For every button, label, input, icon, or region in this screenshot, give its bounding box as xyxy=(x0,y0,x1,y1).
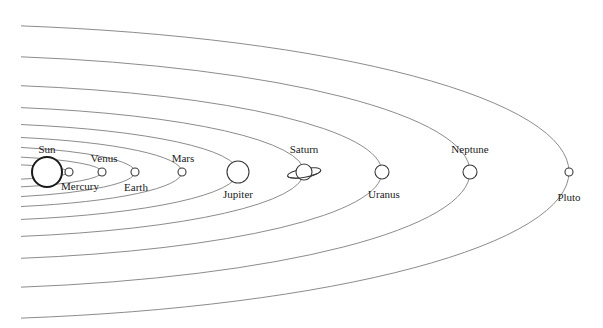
solar-system-diagram: SunMercuryVenusEarthMarsJupiterSaturnUra… xyxy=(0,0,603,328)
sun-icon xyxy=(32,157,62,187)
jupiter-icon xyxy=(227,161,249,183)
uranus-label: Uranus xyxy=(368,188,400,200)
jupiter-label: Jupiter xyxy=(223,188,253,200)
venus-label: Venus xyxy=(91,152,118,164)
mars-label: Mars xyxy=(172,152,195,164)
neptune-label: Neptune xyxy=(451,143,488,155)
uranus-orbit xyxy=(21,86,382,259)
uranus-icon xyxy=(375,165,389,179)
mercury-label: Mercury xyxy=(61,180,99,192)
saturn-icon xyxy=(287,164,322,180)
earth-icon xyxy=(131,168,139,176)
sun-label: Sun xyxy=(38,143,56,155)
venus-icon xyxy=(98,168,106,176)
mars-icon xyxy=(178,168,186,176)
neptune-icon xyxy=(463,165,477,179)
saturn-label: Saturn xyxy=(290,143,319,155)
pluto-icon xyxy=(565,168,573,176)
earth-label: Earth xyxy=(124,181,148,193)
mercury-icon xyxy=(65,168,73,176)
pluto-label: Pluto xyxy=(557,191,581,203)
